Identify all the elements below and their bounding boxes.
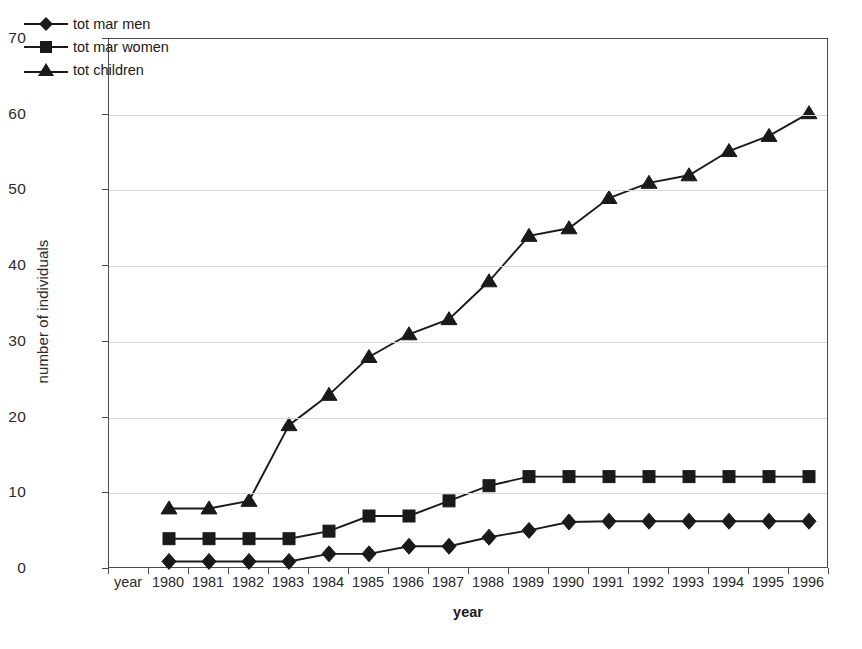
legend-label: tot mar men bbox=[73, 16, 150, 32]
x-tick-label: 1991 bbox=[588, 574, 628, 598]
data-point-square bbox=[283, 533, 295, 545]
data-point-triangle bbox=[561, 221, 577, 234]
legend-marker-diamond bbox=[22, 14, 70, 34]
x-axis-tick-labels: year198019811982198319841985198619871988… bbox=[108, 574, 828, 598]
data-point-square bbox=[403, 510, 415, 522]
line-chart: number of individuals year19801981198219… bbox=[0, 0, 862, 649]
y-axis-label: number of individuals bbox=[34, 162, 51, 462]
data-point-triangle bbox=[241, 493, 257, 506]
data-point-triangle bbox=[281, 418, 297, 431]
x-tick-label: 1987 bbox=[428, 574, 468, 598]
data-point-diamond bbox=[522, 522, 536, 538]
y-tick-mark bbox=[102, 568, 108, 569]
x-tick-label: 1994 bbox=[708, 574, 748, 598]
y-tick-mark bbox=[102, 492, 108, 493]
data-point-square bbox=[443, 495, 455, 507]
x-axis-title: year bbox=[108, 604, 828, 620]
y-tick-mark bbox=[102, 265, 108, 266]
data-point-square bbox=[163, 533, 175, 545]
x-tick-label: 1988 bbox=[468, 574, 508, 598]
x-tick-label: 1996 bbox=[788, 574, 828, 598]
data-point-square bbox=[243, 533, 255, 545]
x-tick-label: 1989 bbox=[508, 574, 548, 598]
y-tick-label: 0 bbox=[0, 559, 26, 577]
x-tick-label: 1984 bbox=[308, 574, 348, 598]
data-point-square bbox=[723, 471, 735, 483]
data-point-diamond bbox=[642, 513, 656, 529]
x-tick-label: 1983 bbox=[268, 574, 308, 598]
series-line-triangle bbox=[169, 113, 809, 508]
x-tick-label: 1985 bbox=[348, 574, 388, 598]
data-point-diamond bbox=[562, 514, 576, 530]
y-tick-label: 10 bbox=[0, 483, 26, 501]
gridline bbox=[109, 190, 827, 191]
data-point-square bbox=[643, 471, 655, 483]
data-point-square bbox=[563, 471, 575, 483]
data-point-triangle bbox=[161, 501, 177, 514]
legend-marker-triangle bbox=[22, 60, 70, 80]
data-point-square bbox=[803, 471, 815, 483]
legend-item: tot mar men bbox=[22, 12, 169, 35]
data-point-triangle bbox=[361, 350, 377, 363]
gridline bbox=[109, 493, 827, 494]
data-point-square bbox=[483, 480, 495, 492]
data-point-diamond bbox=[322, 546, 336, 562]
data-point-triangle bbox=[721, 144, 737, 157]
gridline bbox=[109, 266, 827, 267]
x-tick-label: year bbox=[108, 574, 148, 598]
y-tick-mark bbox=[102, 189, 108, 190]
x-tick-label: 1981 bbox=[188, 574, 228, 598]
legend-item: tot children bbox=[22, 58, 169, 81]
data-point-triangle bbox=[601, 191, 617, 204]
data-point-diamond bbox=[442, 538, 456, 554]
x-tick-label: 1995 bbox=[748, 574, 788, 598]
y-tick-label: 30 bbox=[0, 332, 26, 350]
gridline bbox=[109, 115, 827, 116]
x-tick-mark bbox=[828, 568, 829, 574]
data-point-square bbox=[203, 533, 215, 545]
data-point-diamond bbox=[762, 513, 776, 529]
y-tick-label: 60 bbox=[0, 105, 26, 123]
data-point-diamond bbox=[402, 538, 416, 554]
legend-label: tot mar women bbox=[73, 39, 169, 55]
data-point-square bbox=[603, 471, 615, 483]
data-point-triangle bbox=[761, 128, 777, 141]
data-point-diamond bbox=[482, 529, 496, 545]
data-point-square bbox=[683, 471, 695, 483]
y-tick-label: 40 bbox=[0, 256, 26, 274]
y-tick-label: 50 bbox=[0, 180, 26, 198]
x-tick-label: 1982 bbox=[228, 574, 268, 598]
y-tick-mark bbox=[102, 114, 108, 115]
y-tick-label: 20 bbox=[0, 408, 26, 426]
data-point-diamond bbox=[802, 513, 816, 529]
gridline bbox=[109, 342, 827, 343]
y-tick-mark bbox=[102, 341, 108, 342]
y-tick-mark bbox=[102, 417, 108, 418]
chart-legend: tot mar men tot mar women tot children bbox=[20, 10, 175, 85]
x-tick-label: 1986 bbox=[388, 574, 428, 598]
series-layer bbox=[109, 39, 829, 569]
legend-item: tot mar women bbox=[22, 35, 169, 58]
data-point-square bbox=[523, 471, 535, 483]
data-point-square bbox=[763, 471, 775, 483]
data-point-square bbox=[363, 510, 375, 522]
legend-label: tot children bbox=[73, 62, 144, 78]
legend-marker-square bbox=[22, 37, 70, 57]
x-tick-label: 1993 bbox=[668, 574, 708, 598]
x-tick-label: 1992 bbox=[628, 574, 668, 598]
y-tick-label: 70 bbox=[0, 29, 26, 47]
data-point-triangle bbox=[801, 106, 817, 119]
data-point-square bbox=[323, 525, 335, 537]
x-tick-label: 1980 bbox=[148, 574, 188, 598]
data-point-diamond bbox=[362, 546, 376, 562]
gridline bbox=[109, 418, 827, 419]
data-point-triangle bbox=[681, 168, 697, 181]
data-point-diamond bbox=[602, 513, 616, 529]
data-point-diamond bbox=[682, 513, 696, 529]
plot-area bbox=[108, 38, 828, 568]
x-tick-label: 1990 bbox=[548, 574, 588, 598]
data-point-diamond bbox=[722, 513, 736, 529]
y-tick-mark bbox=[102, 38, 108, 39]
data-point-triangle bbox=[401, 327, 417, 340]
